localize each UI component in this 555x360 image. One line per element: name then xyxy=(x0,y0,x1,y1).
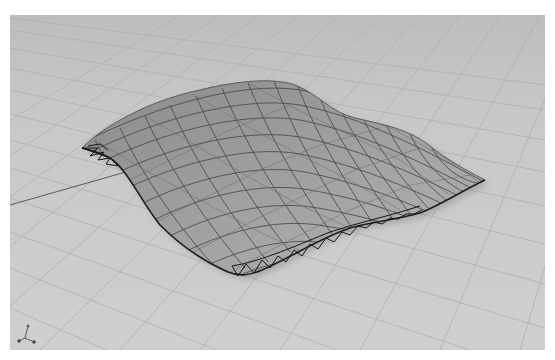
3d-viewport[interactable] xyxy=(10,15,545,350)
scene-canvas xyxy=(10,15,545,350)
